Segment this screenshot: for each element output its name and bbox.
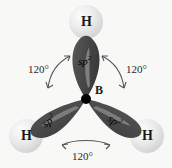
orbital-lobe-lower-right [86, 99, 142, 138]
sp2-hybridization-diagram: H H H B sp2 sp2 sp2 120° 120° 120° [0, 0, 172, 168]
hydrogen-sphere-top [69, 5, 103, 39]
orbital-lobe-top [72, 36, 99, 99]
angle-arc-upper-left [46, 56, 70, 88]
angle-arc-bottom [62, 141, 110, 150]
molecule-illustration [0, 0, 172, 168]
orbital-lobe-lower-left [30, 99, 86, 138]
angle-arc-upper-right [102, 56, 126, 88]
boron-nucleus [81, 94, 91, 104]
